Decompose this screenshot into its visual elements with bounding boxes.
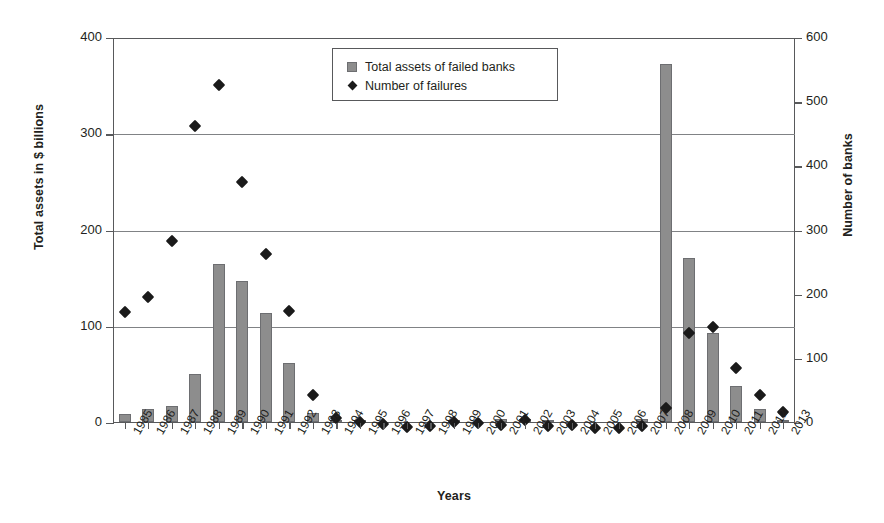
x-tick-label: 1996 <box>388 430 400 437</box>
x-tick <box>548 423 549 429</box>
y-tick-left <box>106 38 114 39</box>
y-tick-label-left: 300 <box>80 125 102 140</box>
data-point-marker <box>753 388 766 401</box>
x-tick <box>501 423 502 429</box>
y-tick-right <box>794 166 802 167</box>
data-point-marker <box>165 234 178 247</box>
x-tick-label: 1989 <box>224 430 236 437</box>
x-tick-label: 1987 <box>177 430 189 437</box>
x-tick-label: 1985 <box>130 430 142 437</box>
x-tick <box>525 423 526 429</box>
y-tick-label-right: 600 <box>806 29 828 44</box>
y-tick-label-right: 400 <box>806 157 828 172</box>
y-tick-left <box>106 134 114 135</box>
y-tick-label-left: 200 <box>80 222 102 237</box>
x-tick <box>148 423 149 429</box>
legend-entry-number-failures: Number of failures <box>347 76 557 95</box>
x-tick-label: 1998 <box>435 430 447 437</box>
x-tick <box>266 423 267 429</box>
data-point-marker <box>259 247 272 260</box>
x-tick-label: 2005 <box>600 430 612 437</box>
data-point-marker <box>189 120 202 133</box>
data-point-marker <box>283 305 296 318</box>
x-tick-label: 1992 <box>294 430 306 437</box>
x-tick <box>736 423 737 429</box>
x-tick <box>454 423 455 429</box>
y-tick-label-right: 500 <box>806 93 828 108</box>
x-tick-label: 1988 <box>200 430 212 437</box>
x-tick <box>125 423 126 429</box>
x-tick <box>760 423 761 429</box>
x-tick <box>478 423 479 429</box>
x-tick <box>407 423 408 429</box>
bar <box>236 281 248 422</box>
x-tick-label: 1986 <box>153 430 165 437</box>
x-tick-label: 2008 <box>671 430 683 437</box>
x-tick <box>783 423 784 429</box>
x-tick <box>242 423 243 429</box>
data-point-marker <box>730 362 743 375</box>
x-tick-label: 2002 <box>530 430 542 437</box>
x-tick-label: 1991 <box>271 430 283 437</box>
gridline <box>113 134 795 135</box>
x-tick <box>289 423 290 429</box>
chart-legend: Total assets of failed banks Number of f… <box>332 48 558 101</box>
y-tick-label-right: 200 <box>806 286 828 301</box>
diamond-marker-icon <box>348 81 358 91</box>
x-tick <box>430 423 431 429</box>
x-tick-label: 1994 <box>341 430 353 437</box>
x-tick <box>689 423 690 429</box>
data-point-marker <box>307 389 320 402</box>
y-tick-left <box>106 327 114 328</box>
gridline <box>113 231 795 232</box>
x-tick <box>642 423 643 429</box>
x-tick-label: 2012 <box>765 430 777 437</box>
y-tick-right <box>794 295 802 296</box>
bar-swatch-icon <box>347 62 357 72</box>
x-tick-label: 2000 <box>483 430 495 437</box>
x-tick-label: 2001 <box>506 430 518 437</box>
bank-failures-chart: Total assets in $ billions Number of ban… <box>0 0 884 523</box>
y-tick-label-right: 300 <box>806 222 828 237</box>
x-tick-label: 1997 <box>412 430 424 437</box>
x-tick-label: 2006 <box>624 430 636 437</box>
x-tick <box>336 423 337 429</box>
bar <box>213 264 225 422</box>
x-tick-label: 2007 <box>647 430 659 437</box>
legend-entry-total-assets: Total assets of failed banks <box>347 57 557 76</box>
x-tick <box>666 423 667 429</box>
x-tick <box>313 423 314 429</box>
x-tick <box>713 423 714 429</box>
x-tick-label: 2010 <box>718 430 730 437</box>
x-tick-label: 2004 <box>577 430 589 437</box>
x-axis-title: Years <box>113 489 795 503</box>
y-tick-right <box>794 102 802 103</box>
data-point-marker <box>142 290 155 303</box>
y-axis-title-left: Total assets in $ billions <box>32 77 46 277</box>
y-tick-label-left: 400 <box>80 29 102 44</box>
axis-line-top <box>113 38 795 39</box>
bar <box>119 414 131 422</box>
x-tick-label: 2009 <box>694 430 706 437</box>
x-tick-label: 1990 <box>247 430 259 437</box>
x-tick <box>383 423 384 429</box>
y-tick-right <box>794 359 802 360</box>
legend-label-number-failures: Number of failures <box>365 79 467 93</box>
bar <box>260 313 272 422</box>
y-tick-label-left: 100 <box>80 318 102 333</box>
y-axis-title-right: Number of banks <box>841 85 855 285</box>
x-tick <box>360 423 361 429</box>
x-tick <box>219 423 220 429</box>
data-point-marker <box>212 78 225 91</box>
data-point-marker <box>118 306 131 319</box>
bar <box>683 258 695 422</box>
x-tick-label: 2003 <box>553 430 565 437</box>
y-tick-left <box>106 231 114 232</box>
y-tick-left <box>106 423 114 424</box>
x-tick <box>619 423 620 429</box>
y-tick-right <box>794 231 802 232</box>
x-tick-label: 1993 <box>318 430 330 437</box>
x-tick-label: 1999 <box>459 430 471 437</box>
data-point-marker <box>236 176 249 189</box>
data-point-marker <box>706 320 719 333</box>
